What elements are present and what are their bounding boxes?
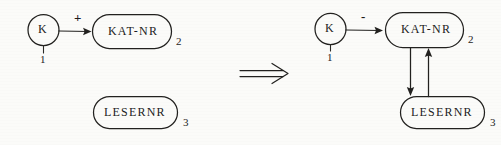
right-relation-arrow-line — [346, 30, 380, 31]
left-kat-nr-label: KAT-NR — [108, 24, 158, 39]
right-lesernr-number: 3 — [490, 116, 496, 128]
right-kat-nr-number: 2 — [468, 33, 474, 45]
right-lesernr-label: LESERNR — [411, 105, 473, 120]
left-kat-nr-number: 2 — [176, 35, 182, 47]
implication-double-arrow — [240, 64, 288, 84]
left-entity-number: 1 — [40, 53, 46, 65]
right-relation-sign: - — [361, 9, 366, 25]
right-kat-nr-label: KAT-NR — [401, 22, 451, 37]
right-entity-number: 1 — [327, 51, 333, 63]
left-relation-sign: + — [74, 10, 82, 26]
kat-to-leser-arrow — [407, 48, 414, 97]
left-entity-label: K — [38, 22, 47, 37]
leser-to-kat-arrow — [425, 48, 432, 97]
left-lesernr-number: 3 — [183, 116, 189, 128]
diagram-canvas: K 1 + KAT-NR 2 LESERNR 3 K 1 - KAT-NR 2 … — [0, 0, 501, 145]
right-entity-label: K — [325, 21, 334, 36]
left-lesernr-label: LESERNR — [104, 105, 166, 120]
